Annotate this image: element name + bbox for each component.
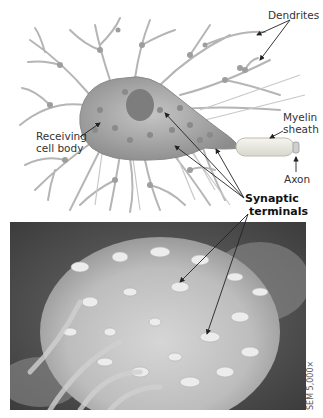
neuron-figure: Dendrites Myelin sheath Axon Receiving c… — [0, 0, 323, 418]
cell-body-shape — [80, 77, 240, 160]
label-axon: Axon — [284, 173, 310, 185]
label-receiving-line1: Receiving — [36, 130, 87, 142]
label-myelin-line2: sheath — [283, 123, 319, 135]
myelin-sheath-shape — [236, 138, 294, 156]
label-dendrites: Dendrites — [268, 9, 319, 21]
label-synaptic-line1: Synaptic — [245, 192, 299, 205]
neuron-illustration — [0, 0, 323, 215]
sem-magnification-caption: SEM 5,000× — [306, 361, 315, 410]
sem-micrograph — [10, 222, 306, 410]
label-synaptic-line2: terminals — [249, 205, 308, 218]
label-receiving-line2: cell body — [36, 142, 83, 154]
axon-shape — [293, 142, 299, 153]
label-myelin-line1: Myelin — [283, 111, 317, 123]
